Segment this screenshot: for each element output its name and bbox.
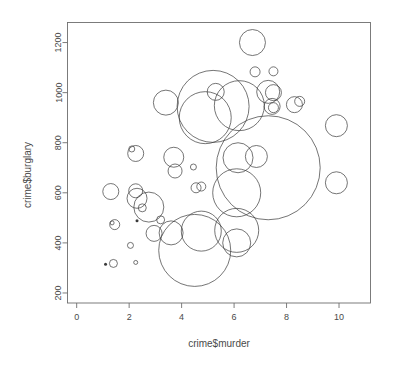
bubble-series bbox=[103, 30, 348, 287]
y-axis-label: crime$burglary bbox=[22, 142, 33, 208]
data-bubble bbox=[223, 143, 253, 173]
x-tick-label: 4 bbox=[179, 312, 184, 322]
data-bubble bbox=[214, 81, 264, 131]
data-bubble bbox=[216, 116, 320, 220]
y-axis-ticks: 20040060080010001200 bbox=[54, 33, 68, 301]
x-tick-label: 2 bbox=[127, 312, 132, 322]
plot-frame bbox=[68, 23, 371, 304]
data-bubble bbox=[295, 96, 305, 106]
y-tick-label: 400 bbox=[54, 235, 64, 250]
data-bubble bbox=[134, 260, 138, 264]
data-bubble bbox=[153, 90, 178, 115]
data-bubble bbox=[146, 225, 162, 241]
data-bubble bbox=[325, 172, 347, 194]
data-bubble bbox=[191, 183, 201, 193]
data-bubble bbox=[159, 221, 183, 245]
data-bubble bbox=[127, 242, 133, 248]
data-bubble bbox=[168, 164, 182, 178]
data-bubble bbox=[245, 145, 267, 167]
data-bubble bbox=[159, 214, 231, 286]
data-bubble bbox=[157, 216, 165, 224]
data-bubble bbox=[269, 67, 278, 76]
x-tick-label: 10 bbox=[334, 312, 344, 322]
data-bubble bbox=[250, 67, 260, 77]
data-bubble bbox=[239, 30, 265, 56]
data-bubble bbox=[325, 115, 347, 137]
data-bubble bbox=[213, 169, 261, 217]
plot-page: 20040060080010001200 0246810 crime$murde… bbox=[0, 0, 395, 371]
x-axis-label: crime$murder bbox=[188, 338, 250, 349]
data-bubble bbox=[136, 219, 139, 222]
data-bubble bbox=[179, 92, 231, 144]
x-tick-label: 0 bbox=[74, 312, 79, 322]
y-tick-label: 800 bbox=[54, 135, 64, 150]
y-tick-label: 1200 bbox=[54, 33, 64, 53]
data-bubble bbox=[177, 70, 249, 142]
data-bubble bbox=[181, 211, 221, 251]
data-bubble bbox=[268, 103, 278, 113]
data-bubble bbox=[128, 145, 144, 161]
data-bubble bbox=[197, 182, 206, 191]
y-tick-label: 200 bbox=[54, 285, 64, 300]
y-tick-label: 600 bbox=[54, 185, 64, 200]
x-axis-ticks: 0246810 bbox=[74, 303, 344, 322]
y-tick-label: 1000 bbox=[54, 83, 64, 103]
data-bubble bbox=[103, 184, 119, 200]
data-bubble bbox=[190, 164, 196, 170]
data-bubble bbox=[286, 97, 302, 113]
x-tick-label: 8 bbox=[284, 312, 289, 322]
data-bubble bbox=[104, 263, 107, 266]
data-bubble bbox=[109, 259, 117, 267]
x-tick-label: 6 bbox=[232, 312, 237, 322]
bubble-scatter-plot: 20040060080010001200 0246810 crime$murde… bbox=[0, 0, 395, 371]
